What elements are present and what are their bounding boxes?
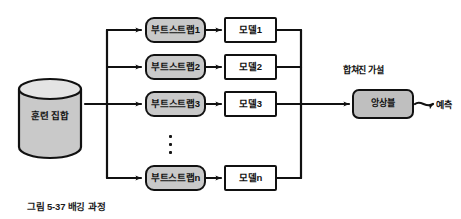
bootstrap-node-2[interactable]: 부트스트랩2 xyxy=(145,54,206,80)
training-set-label: 훈련 집합 xyxy=(14,108,86,122)
edge-ensemble-to-prediction xyxy=(415,103,433,106)
vertical-ellipsis-icon xyxy=(166,130,175,159)
model-node-2[interactable]: 모델2 xyxy=(224,54,277,80)
bootstrap-node-4[interactable]: 부트스트랩n xyxy=(145,165,206,191)
ensemble-node[interactable]: 앙상블 xyxy=(352,89,414,119)
figure-caption: 그림 5-37 배깅 과정 xyxy=(27,199,105,213)
model-node-4[interactable]: 모델n xyxy=(224,165,277,191)
model-node-3[interactable]: 모델3 xyxy=(224,91,277,117)
bootstrap-node-3[interactable]: 부트스트랩3 xyxy=(145,91,206,117)
model-node-1[interactable]: 모델1 xyxy=(224,17,277,43)
bagging-process-diagram: 훈련 집합 부트스트랩1 부트스트랩2 부트스트랩3 부트스트랩n 모델1 모델… xyxy=(0,0,461,219)
bootstrap-node-1[interactable]: 부트스트랩1 xyxy=(145,17,206,43)
combined-hypothesis-label: 합쳐진 가설 xyxy=(343,63,384,76)
prediction-label: 예측 xyxy=(436,98,451,111)
